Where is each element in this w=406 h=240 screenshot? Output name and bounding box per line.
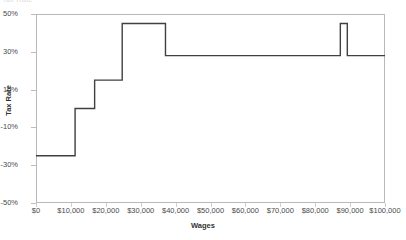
x-tick-mark [385,203,386,207]
y-tick-mark [31,14,36,15]
x-tick-label: $0 [32,206,40,215]
x-tick-mark [350,203,351,207]
y-tick-mark [31,52,36,53]
x-tick-mark [36,203,37,207]
x-tick-label: $100,000 [369,206,400,215]
x-tick-label: $10,000 [57,206,84,215]
x-tick-label: $90,000 [337,206,364,215]
plot-area [36,14,385,203]
x-axis-label: Wages [0,221,406,230]
x-tick-label: $70,000 [267,206,294,215]
x-tick-label: $60,000 [232,206,259,215]
y-tick-label: -30% [0,160,18,169]
x-tick-label: $30,000 [127,206,154,215]
y-tick-mark [31,165,36,166]
chart-container: Tax Rate 50%30%10%-10%-30%-50% $0$10,000… [0,0,406,240]
y-tick-label: -50% [0,198,18,207]
x-tick-mark [106,203,107,207]
x-tick-label: $20,000 [92,206,119,215]
x-tick-mark [141,203,142,207]
x-tick-label: $50,000 [197,206,224,215]
y-tick-label: 50% [0,9,18,18]
y-tick-label: 30% [0,47,18,56]
y-tick-mark [31,90,36,91]
x-tick-mark [176,203,177,207]
x-tick-mark [315,203,316,207]
x-tick-mark [280,203,281,207]
x-tick-label: $80,000 [302,206,329,215]
x-tick-mark [245,203,246,207]
chart-top-title: Tax Rate [2,0,33,3]
y-tick-mark [31,127,36,128]
x-tick-label: $40,000 [162,206,189,215]
x-tick-mark [71,203,72,207]
x-tick-mark [211,203,212,207]
y-axis-label: Tax Rate [4,71,13,131]
